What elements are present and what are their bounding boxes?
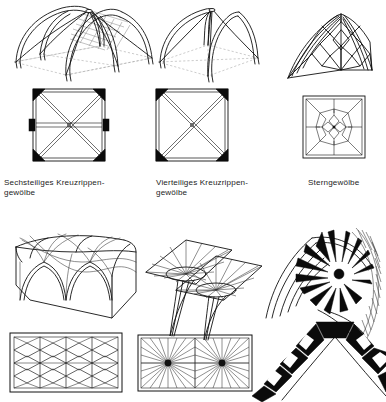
keystone-boss-sechsteilig: [86, 9, 92, 12]
caption-sechsteiliges: Sechsteiliges Kreuzrippen- gewölbe: [4, 178, 124, 199]
fig-sterngewoelbe-grundriss: [303, 96, 365, 158]
fan-centre-left: [165, 360, 172, 367]
star-plan-tracery: [306, 99, 362, 155]
keystone-boss-vierteilig: [209, 9, 215, 12]
plate-canvas: [0, 0, 386, 402]
plate-background: [0, 0, 386, 402]
vault-forms-plate: Sechsteiliges Kreuzrippen- gewölbe Viert…: [0, 0, 386, 402]
fan-centre-right: [219, 360, 226, 367]
caption-sterngewoelbe: Sterngewölbe: [308, 178, 384, 188]
caption-vierteiliges: Vierteiliges Kreuzrippen- gewölbe: [156, 178, 276, 199]
